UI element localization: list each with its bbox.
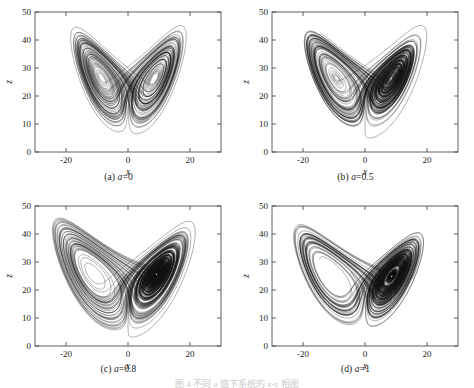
ytick-label: 0 bbox=[27, 341, 32, 351]
attractor-trajectory-a bbox=[71, 26, 187, 134]
y-axis-label: z bbox=[4, 80, 14, 85]
ytick-label: 50 bbox=[22, 201, 32, 211]
ytick-label: 50 bbox=[259, 201, 269, 211]
ytick-label: 10 bbox=[259, 119, 269, 129]
xtick-label: -20 bbox=[60, 155, 72, 165]
attractor-svg-b: -2002001020304050xz bbox=[237, 0, 474, 194]
panel-caption-b: (b) a=0.5 bbox=[237, 172, 474, 182]
attractor-plot-c: -2002001020304050xz bbox=[0, 194, 237, 388]
plot-panel-c: -2002001020304050xz (c) a=0.8 bbox=[0, 194, 237, 388]
xtick-label: -20 bbox=[297, 349, 309, 359]
attractor-trajectory-c bbox=[52, 218, 195, 337]
attractor-plot-b: -2002001020304050xz bbox=[237, 0, 474, 194]
ytick-label: 30 bbox=[22, 257, 32, 267]
ytick-label: 0 bbox=[264, 341, 269, 351]
ytick-label: 20 bbox=[259, 91, 269, 101]
panel-caption-c-prefix: (c) bbox=[101, 364, 114, 374]
xtick-label: 20 bbox=[186, 349, 196, 359]
y-axis-label: z bbox=[241, 274, 251, 279]
y-axis-label: z bbox=[4, 274, 14, 279]
ytick-label: 50 bbox=[22, 7, 32, 17]
ytick-label: 40 bbox=[22, 229, 32, 239]
ytick-label: 0 bbox=[27, 147, 32, 157]
panel-caption-a-prefix: (a) bbox=[104, 172, 117, 182]
attractor-svg-c: -2002001020304050xz bbox=[0, 194, 237, 388]
ytick-label: 30 bbox=[22, 63, 32, 73]
xtick-label: 20 bbox=[423, 349, 433, 359]
panel-caption-a: (a) a=0 bbox=[0, 172, 237, 182]
ytick-label: 30 bbox=[259, 63, 269, 73]
xtick-label: 0 bbox=[126, 349, 131, 359]
ytick-label: 0 bbox=[264, 147, 269, 157]
panel-caption-b-value: =0.5 bbox=[356, 172, 374, 182]
panel-caption-d: (d) a=1 bbox=[237, 364, 474, 374]
figure-caption: 图 4 不同 a 值下系统的 x-z 相图 bbox=[0, 379, 474, 388]
attractor-svg-d: -2002001020304050xz bbox=[237, 194, 474, 388]
ytick-label: 10 bbox=[22, 313, 32, 323]
ytick-label: 40 bbox=[259, 229, 269, 239]
ytick-label: 30 bbox=[259, 257, 269, 267]
ytick-label: 10 bbox=[259, 313, 269, 323]
panel-caption-d-prefix: (d) bbox=[341, 364, 355, 374]
attractor-plot-a: -2002001020304050xz bbox=[0, 0, 237, 194]
ytick-label: 20 bbox=[22, 285, 32, 295]
figure-panel-grid: -2002001020304050xz (a) a=0 -20020010203… bbox=[0, 0, 474, 388]
panel-caption-c-value: =0.8 bbox=[119, 364, 137, 374]
xtick-label: 0 bbox=[126, 155, 131, 165]
plot-panel-a: -2002001020304050xz (a) a=0 bbox=[0, 0, 237, 194]
panel-caption-d-value: =1 bbox=[360, 364, 370, 374]
ytick-label: 50 bbox=[259, 7, 269, 17]
ytick-label: 10 bbox=[22, 119, 32, 129]
attractor-svg-a: -2002001020304050xz bbox=[0, 0, 237, 194]
plot-panel-b: -2002001020304050xz (b) a=0.5 bbox=[237, 0, 474, 194]
xtick-label: 20 bbox=[186, 155, 196, 165]
ytick-label: 20 bbox=[259, 285, 269, 295]
xtick-label: -20 bbox=[297, 155, 309, 165]
attractor-trajectory-d bbox=[294, 225, 424, 327]
attractor-trajectory-b bbox=[304, 25, 426, 138]
xtick-label: 20 bbox=[423, 155, 433, 165]
panel-caption-a-value: =0 bbox=[122, 172, 132, 182]
xtick-label: 0 bbox=[363, 155, 368, 165]
ytick-label: 20 bbox=[22, 91, 32, 101]
panel-caption-c: (c) a=0.8 bbox=[0, 364, 237, 374]
panel-caption-b-prefix: (b) bbox=[337, 172, 351, 182]
attractor-plot-d: -2002001020304050xz bbox=[237, 194, 474, 388]
plot-panel-d: -2002001020304050xz (d) a=1 bbox=[237, 194, 474, 388]
y-axis-label: z bbox=[241, 80, 251, 85]
xtick-label: -20 bbox=[60, 349, 72, 359]
ytick-label: 40 bbox=[259, 35, 269, 45]
xtick-label: 0 bbox=[363, 349, 368, 359]
ytick-label: 40 bbox=[22, 35, 32, 45]
